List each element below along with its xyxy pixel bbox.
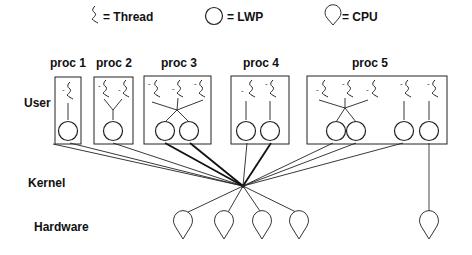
cpu-icon bbox=[215, 211, 234, 239]
thread-icon bbox=[432, 80, 438, 97]
svg-text:-: - bbox=[316, 85, 319, 94]
thread-icon bbox=[177, 80, 183, 97]
svg-text:-: - bbox=[241, 86, 244, 95]
process-5: - - - - - bbox=[307, 76, 447, 144]
svg-text:-: - bbox=[98, 81, 101, 90]
lwp-icon bbox=[59, 122, 78, 141]
cpu-icon bbox=[174, 211, 193, 239]
cpu-icon bbox=[290, 211, 309, 239]
process-3: - - - bbox=[144, 76, 211, 144]
thread-icon bbox=[347, 80, 353, 97]
thread-icon bbox=[154, 80, 160, 97]
process-2: - - bbox=[94, 77, 133, 144]
cpu-icon bbox=[420, 211, 439, 239]
svg-text:-: - bbox=[148, 79, 151, 88]
hardware-cpus bbox=[174, 211, 439, 239]
svg-text:-: - bbox=[400, 79, 403, 88]
svg-text:-: - bbox=[265, 79, 268, 88]
lwp-icon bbox=[420, 122, 439, 141]
svg-text:-: - bbox=[342, 79, 345, 88]
legend-lwp-label: = LWP bbox=[227, 10, 263, 24]
lwp-icon bbox=[347, 122, 366, 141]
svg-text:-: - bbox=[118, 85, 121, 94]
thread-icon bbox=[199, 80, 205, 97]
lwp-icon bbox=[104, 122, 123, 141]
thread-icon bbox=[405, 80, 411, 97]
layer-label-hardware: Hardware bbox=[34, 220, 89, 234]
layer-label-kernel: Kernel bbox=[28, 176, 65, 190]
threads-lwp-cpu-diagram: = Thread = LWP = CPU User Kernel Hardwar… bbox=[0, 0, 472, 255]
svg-text:-: - bbox=[194, 79, 197, 88]
svg-text:-: - bbox=[427, 79, 430, 88]
cpu-icon bbox=[325, 5, 341, 25]
lwp-icon bbox=[180, 122, 199, 141]
lwp-icon bbox=[237, 122, 256, 141]
thread-icon bbox=[270, 80, 276, 97]
process-1: - bbox=[55, 77, 81, 144]
kernel-connections bbox=[53, 143, 403, 214]
svg-text:-: - bbox=[172, 84, 175, 93]
legend-cpu-label: = CPU bbox=[342, 10, 378, 24]
process-label-5: proc 5 bbox=[352, 56, 388, 70]
layer-label-user: User bbox=[24, 96, 51, 110]
process-label-3: proc 3 bbox=[161, 56, 197, 70]
thread-icon bbox=[249, 80, 255, 97]
lwp-icon bbox=[327, 122, 346, 141]
lwp-icon bbox=[395, 122, 414, 141]
process-label-2: proc 2 bbox=[96, 56, 132, 70]
legend: = Thread = LWP = CPU bbox=[92, 5, 378, 25]
svg-text:-: - bbox=[366, 85, 369, 94]
process-label-4: proc 4 bbox=[243, 56, 279, 70]
legend-thread-label: = Thread bbox=[103, 10, 153, 24]
process-4: - - bbox=[231, 76, 289, 144]
thread-icon bbox=[372, 80, 378, 97]
thread-icon bbox=[92, 6, 98, 23]
thread-icon bbox=[123, 80, 129, 97]
thread-icon bbox=[67, 82, 73, 99]
thread-icon bbox=[103, 80, 109, 97]
lwp-icon bbox=[206, 8, 223, 25]
svg-text:-: - bbox=[62, 85, 65, 94]
process-label-1: proc 1 bbox=[50, 56, 86, 70]
thread-icon bbox=[322, 80, 328, 97]
lwp-icon bbox=[261, 122, 280, 141]
lwp-icon bbox=[156, 122, 175, 141]
cpu-icon bbox=[253, 211, 272, 239]
